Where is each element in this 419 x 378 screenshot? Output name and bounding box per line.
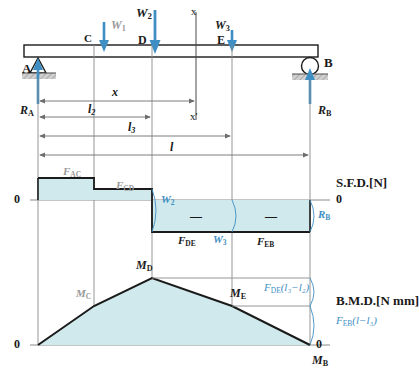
dimension-lines — [40, 101, 308, 155]
bmd-label-MC: MC — [76, 288, 91, 300]
sfd-label-FDE: FDE — [178, 235, 196, 247]
bmd-annotation-FDE: FDE(l₃−l₂) — [264, 282, 309, 294]
reaction-label-RA: RA — [20, 104, 34, 118]
bmd-zero-right: 0 — [316, 338, 322, 350]
sfd-minus-sign-EB: — — [265, 210, 277, 222]
dimension-label-l2: l2 — [88, 103, 95, 117]
sfd-brace-RB: RB — [318, 209, 330, 221]
load-label-W2: W2 — [136, 6, 152, 21]
load-label-W3: W3 — [215, 19, 230, 33]
bmd-label-MD: MD — [136, 259, 153, 273]
sfd-minus-sign-DE: — — [190, 210, 202, 222]
dimension-label-l: l — [170, 141, 173, 153]
beam-point-E: E — [217, 34, 225, 46]
support-label-A: A — [22, 62, 31, 75]
bmd-annotation-FEB: FEB(l−l₃) — [336, 315, 377, 327]
beam-point-D: D — [138, 34, 147, 46]
section-label-x-bottom: x' — [190, 111, 197, 122]
bmd-label-ME: ME — [230, 287, 246, 301]
bmd-title: B.M.D.[N mm] — [336, 294, 419, 307]
beam-point-C: C — [84, 33, 92, 44]
sfd-zero-left: 0 — [14, 193, 20, 205]
section-label-x-top: x — [191, 6, 197, 17]
bmd-zero-left: 0 — [14, 338, 20, 350]
sfd-plot — [30, 178, 330, 232]
beam-body — [24, 45, 318, 57]
reaction-label-RB: RB — [318, 104, 331, 118]
load-label-W1: W1 — [111, 19, 126, 33]
dimension-label-l3: l3 — [128, 121, 135, 135]
sfd-label-FEB: FEB — [257, 236, 274, 248]
sfd-label-FAC: FAC — [63, 166, 81, 178]
sfd-label-FCD: FCD — [116, 180, 134, 192]
sfd-title: S.F.D.[N] — [336, 176, 387, 189]
sfd-drop-W2: W2 — [161, 194, 175, 206]
bmd-label-MB: MB — [312, 354, 328, 368]
dimension-label-x: x — [112, 86, 118, 98]
support-label-B: B — [324, 56, 333, 69]
sfd-zero-right: 0 — [336, 193, 342, 205]
sfd-drop-W3: W3 — [213, 234, 227, 246]
